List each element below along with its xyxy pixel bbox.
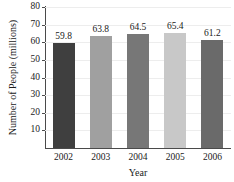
bar: 65.4 (164, 33, 186, 148)
y-axis-tick-mark (42, 25, 45, 26)
y-axis-tick-mark (42, 113, 45, 114)
bar-chart-figure: Number of People (millions) 102030405060… (0, 0, 234, 182)
y-axis-tick-mark (42, 60, 45, 61)
y-axis-tick-label: 80 (31, 2, 41, 12)
y-axis-tick-mark (42, 7, 45, 8)
bar-value-label: 64.5 (130, 22, 147, 32)
bar: 59.8 (53, 43, 75, 148)
y-axis-tick-label: 60 (31, 38, 41, 48)
x-axis-tick-label: 2005 (166, 152, 185, 162)
y-axis-title: Number of People (millions) (7, 3, 18, 153)
bar-value-label: 61.2 (204, 28, 221, 38)
bar: 64.5 (127, 34, 149, 148)
y-axis-tick-label: 10 (31, 126, 41, 136)
x-axis-tick-label: 2006 (203, 152, 222, 162)
y-axis-tick-label: 30 (31, 90, 41, 100)
y-axis-tick-mark (42, 42, 45, 43)
y-axis-tick-mark (42, 130, 45, 131)
x-axis-tick-label: 2004 (129, 152, 148, 162)
bar-value-label: 59.8 (55, 31, 72, 41)
bar-value-label: 63.8 (92, 24, 109, 34)
bar-value-label: 65.4 (167, 21, 184, 31)
y-axis-tick-label: 40 (31, 73, 41, 83)
plot-area: 1020304050607080 59.863.864.565.461.2 (45, 7, 231, 148)
y-axis-tick-label: 70 (31, 20, 41, 30)
bar: 61.2 (201, 40, 223, 148)
gridline (45, 7, 231, 8)
y-axis-tick-mark (42, 78, 45, 79)
x-axis-line (45, 148, 231, 149)
y-axis-tick-mark (42, 95, 45, 96)
y-axis-tick-label: 20 (31, 108, 41, 118)
x-axis-tick-label: 2003 (91, 152, 110, 162)
bar: 63.8 (90, 36, 112, 148)
y-axis-tick-label: 50 (31, 55, 41, 65)
x-axis-tick-label: 2002 (54, 152, 73, 162)
x-axis-title: Year (45, 167, 231, 178)
